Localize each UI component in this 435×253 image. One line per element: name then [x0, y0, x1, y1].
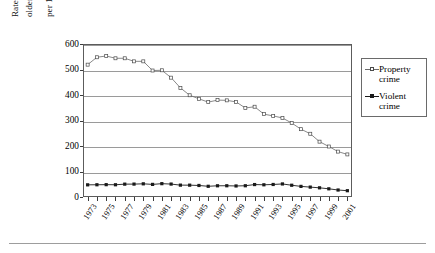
- x-tick-label-1989: 1989: [231, 203, 247, 222]
- x-tick-mark: [255, 197, 256, 201]
- x-tick-mark: [310, 197, 311, 201]
- x-tick-mark: [125, 197, 126, 201]
- x-tick-mark: [134, 197, 135, 201]
- x-tick-label-1979: 1979: [138, 203, 154, 222]
- x-tick-label-1999: 1999: [323, 203, 339, 222]
- gridline-600: [84, 45, 351, 46]
- x-tick-mark: [320, 197, 321, 201]
- x-tick-mark: [227, 197, 228, 201]
- crime-rate-trend-chart: Rate (number per 1,000 population age 12…: [0, 0, 435, 253]
- x-tick-mark: [245, 197, 246, 201]
- x-tick-mark: [115, 197, 116, 201]
- x-tick-mark: [190, 197, 191, 201]
- gridline-100: [84, 173, 351, 174]
- x-tick-label-1983: 1983: [175, 203, 191, 222]
- x-tick-label-1977: 1977: [119, 203, 135, 222]
- x-tick-label-1993: 1993: [268, 203, 284, 222]
- x-tick-mark: [329, 197, 330, 201]
- x-tick-mark: [218, 197, 219, 201]
- x-tick-mark: [264, 197, 265, 201]
- y-axis-title-line-3: per 1,000 households) of property crimes: [45, 0, 54, 17]
- gridline-300: [84, 122, 351, 123]
- x-tick-label-2001: 2001: [342, 203, 358, 222]
- x-tick-mark: [143, 197, 144, 201]
- gridline-400: [84, 96, 351, 97]
- y-tick-label-500: 500: [39, 65, 79, 74]
- x-tick-mark: [292, 197, 293, 201]
- x-tick-mark: [338, 197, 339, 201]
- y-tick-label-600: 600: [39, 40, 79, 49]
- x-tick-label-1985: 1985: [194, 203, 210, 222]
- y-axis-title-line-1: Rate (number per 1,000 population age 12…: [11, 0, 20, 17]
- x-tick-mark: [273, 197, 274, 201]
- y-tick-label-400: 400: [39, 91, 79, 100]
- y-tick-label-300: 300: [39, 116, 79, 125]
- x-tick-mark: [301, 197, 302, 201]
- gridline-500: [84, 71, 351, 72]
- legend-marker-property-crime: [365, 65, 379, 75]
- x-tick-mark: [282, 197, 283, 201]
- x-tick-mark: [347, 197, 348, 201]
- x-tick-label-1997: 1997: [305, 203, 321, 222]
- x-tick-mark: [97, 197, 98, 201]
- gridline-200: [84, 147, 351, 148]
- chart-legend: Property crime Violent crime: [361, 58, 427, 117]
- x-tick-mark: [236, 197, 237, 201]
- x-tick-mark: [153, 197, 154, 201]
- x-tick-mark: [106, 197, 107, 201]
- x-tick-mark: [88, 197, 89, 201]
- plot-area: [83, 44, 352, 197]
- y-tick-label-200: 200: [39, 142, 79, 151]
- x-tick-label-1975: 1975: [101, 203, 117, 222]
- x-tick-label-1987: 1987: [212, 203, 228, 222]
- x-tick-label-1981: 1981: [156, 203, 172, 222]
- x-tick-mark: [208, 197, 209, 201]
- legend-label-violent-crime: Violent crime: [379, 91, 406, 112]
- legend-marker-violent-crime: [365, 92, 379, 102]
- x-tick-mark: [180, 197, 181, 201]
- x-tick-label-1995: 1995: [286, 203, 302, 222]
- x-tick-mark: [199, 197, 200, 201]
- x-tick-mark: [162, 197, 163, 201]
- y-tick-label-100: 100: [39, 167, 79, 176]
- legend-item-violent-crime: Violent crime: [365, 91, 423, 112]
- x-tick-mark: [171, 197, 172, 201]
- y-tick-label-0: 0: [39, 193, 79, 202]
- footer-divider: [9, 243, 426, 244]
- x-tick-label-1991: 1991: [249, 203, 265, 222]
- legend-item-property-crime: Property crime: [365, 64, 423, 85]
- legend-label-property-crime: Property crime: [379, 64, 411, 85]
